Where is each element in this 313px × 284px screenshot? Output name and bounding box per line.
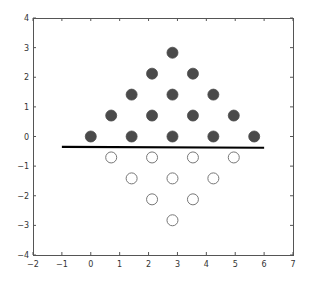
filled-point (249, 131, 260, 142)
filled-point (106, 110, 117, 121)
open-point (126, 173, 137, 184)
open-point (167, 215, 178, 226)
filled-point (208, 89, 219, 100)
x-tick-label: 7 (290, 260, 295, 269)
open-point (167, 173, 178, 184)
filled-point (85, 131, 96, 142)
x-axis-ticks: −2−101234567 (27, 18, 295, 269)
filled-point (147, 110, 158, 121)
data-points (85, 47, 259, 226)
x-tick-label: 0 (88, 260, 93, 269)
y-tick-label: 2 (24, 73, 29, 82)
filled-point (167, 47, 178, 58)
open-point (187, 152, 198, 163)
filled-point (228, 110, 239, 121)
x-tick-label: 2 (146, 260, 151, 269)
filled-point (187, 110, 198, 121)
filled-point (126, 89, 137, 100)
filled-point (208, 131, 219, 142)
y-tick-label: −4 (17, 251, 29, 260)
scatter-chart: −2−101234567 −4−3−2−101234 (0, 0, 313, 284)
open-point (147, 194, 158, 205)
y-tick-label: −1 (17, 162, 29, 171)
y-tick-label: 0 (24, 133, 29, 142)
y-tick-label: 4 (24, 14, 29, 23)
filled-point (126, 131, 137, 142)
open-point (228, 152, 239, 163)
y-tick-label: 1 (24, 103, 29, 112)
filled-point (187, 68, 198, 79)
separator-line (62, 147, 264, 148)
filled-point (147, 68, 158, 79)
filled-point (167, 131, 178, 142)
open-point (147, 152, 158, 163)
x-tick-label: 3 (175, 260, 180, 269)
y-tick-label: −2 (17, 192, 29, 201)
x-tick-label: −1 (56, 260, 68, 269)
y-tick-label: −3 (17, 221, 29, 230)
open-point (208, 173, 219, 184)
y-tick-label: 3 (24, 44, 29, 53)
open-point (106, 152, 117, 163)
x-tick-label: 1 (117, 260, 122, 269)
x-tick-label: 5 (233, 260, 238, 269)
separator-line (62, 147, 264, 148)
open-point (187, 194, 198, 205)
x-tick-label: −2 (27, 260, 39, 269)
filled-point (167, 89, 178, 100)
x-tick-label: 4 (204, 260, 209, 269)
x-tick-label: 6 (262, 260, 267, 269)
